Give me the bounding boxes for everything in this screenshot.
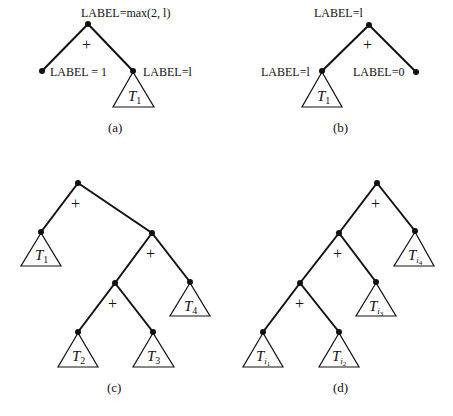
panel-a: LABEL=max(2, l) + LABEL = 1 LABEL=l T1 (…: [39, 6, 192, 135]
left-leaf-label: LABEL = 1: [50, 65, 107, 79]
edge: [377, 183, 415, 231]
root-node: [85, 21, 91, 27]
root-node: [374, 180, 380, 186]
operator-plus: +: [146, 245, 155, 262]
root-node: [75, 180, 81, 186]
node: [336, 329, 342, 335]
subtree-node: [319, 68, 325, 74]
node: [336, 230, 342, 236]
right-node-label: LABEL=l: [143, 65, 192, 79]
node: [150, 329, 156, 335]
operator-plus: +: [108, 295, 117, 312]
node: [149, 230, 155, 236]
root-label: LABEL=l: [314, 6, 363, 20]
caption-d: (d): [333, 380, 348, 395]
edge: [300, 283, 339, 332]
panel-d: + + + Ti1 Ti2 Ti3 Ti4 (d): [243, 180, 434, 395]
node: [373, 279, 379, 285]
node: [297, 280, 303, 286]
root-label: LABEL=max(2, l): [81, 6, 170, 20]
operator-plus: +: [363, 36, 372, 53]
panel-c: + + + T1 T2 T3 T4 (c): [21, 180, 210, 395]
edge: [339, 233, 376, 282]
operator-plus: +: [371, 195, 380, 212]
edge: [115, 283, 153, 332]
node: [75, 329, 81, 335]
edge: [152, 233, 190, 282]
operator-plus: +: [333, 245, 342, 262]
node: [112, 280, 118, 286]
caption-c: (c): [107, 380, 121, 395]
right-leaf-label: LABEL=0: [353, 65, 404, 79]
node: [187, 279, 193, 285]
root-node: [366, 22, 372, 28]
node: [412, 228, 418, 234]
operator-plus: +: [295, 295, 304, 312]
node: [260, 329, 266, 335]
operator-plus: +: [71, 195, 80, 212]
left-node-label: LABEL=l: [261, 65, 310, 79]
caption-b: (b): [333, 120, 348, 135]
node: [38, 229, 44, 235]
subtree-node: [130, 68, 136, 74]
edge: [78, 183, 152, 233]
panel-b: LABEL=l + LABEL=l LABEL=0 T1 (b): [261, 6, 419, 135]
expression-tree-figure: LABEL=max(2, l) + LABEL = 1 LABEL=l T1 (…: [0, 0, 453, 416]
caption-a: (a): [108, 120, 122, 135]
operator-plus: +: [82, 36, 91, 53]
edge: [88, 24, 133, 71]
leaf-node: [39, 68, 45, 74]
leaf-node: [413, 69, 419, 75]
